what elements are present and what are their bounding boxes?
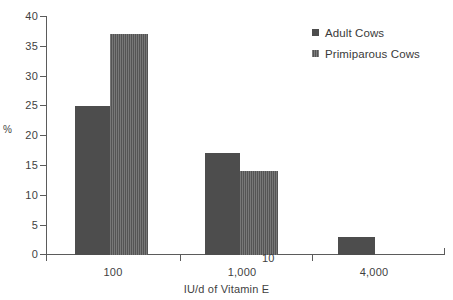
y-tick-label-15: 15 [8,160,38,171]
bar-adult-1000 [205,153,240,255]
x-group-label-1000: 1,000 [212,266,272,278]
bar-primiparous-1000 [240,171,278,255]
y-tick-30 [40,76,46,77]
x-tick-between-1000-4000 [312,254,313,261]
x-group-label-4000: 4,000 [344,266,404,278]
y-tick-40 [40,16,46,17]
bar-adult-4000 [338,237,375,255]
legend-entry-adult-cows: Adult Cows [312,22,420,43]
y-tick-15 [40,165,46,166]
y-tick-35 [40,46,46,47]
y-tick-label-5: 5 [8,220,38,231]
legend-swatch-primiparous-icon [312,50,319,57]
y-tick-label-30: 30 [8,71,38,82]
x-tick-between-100-1000 [180,254,181,261]
bar-primiparous-100 [110,34,148,255]
y-tick-5 [40,225,46,226]
x-tick-start [46,254,47,261]
x-group-label-100: 100 [83,266,143,278]
y-tick-label-0: 0 [8,249,38,260]
bar-chart: % 40 35 30 25 20 15 10 5 0 100 1,000 4,0… [0,0,453,300]
y-axis-line [46,16,47,255]
y-tick-25 [40,105,46,106]
y-tick-20 [40,135,46,136]
x-axis-end-tick [444,248,445,255]
y-tick-label-20: 20 [8,130,38,141]
legend-label-adult-cows: Adult Cows [325,27,384,39]
y-tick-label-10: 10 [8,190,38,201]
bar-adult-100 [75,106,110,255]
legend: Adult Cows Primiparous Cows [312,22,420,64]
x-stray-label-10: 10 [262,252,275,264]
y-tick-label-35: 35 [8,41,38,52]
legend-label-primiparous-cows: Primiparous Cows [325,48,420,60]
legend-entry-primiparous-cows: Primiparous Cows [312,43,420,64]
y-tick-10 [40,195,46,196]
legend-swatch-adult-icon [312,29,319,36]
y-tick-label-40: 40 [8,11,38,22]
x-axis-title: IU/d of Vitamin E [0,283,453,295]
y-tick-label-25: 25 [8,100,38,111]
